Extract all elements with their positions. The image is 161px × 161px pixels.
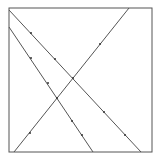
line-c [14,8,129,152]
line-b [9,27,93,152]
line-a [9,10,141,152]
intersection-point [72,77,74,79]
dot-marker [30,32,32,34]
dot-marker [47,82,49,84]
dot-marker [99,43,101,45]
dot-marker [71,120,73,122]
dot-marker [124,134,126,136]
dot-marker [29,132,31,134]
crossing-lines [9,8,141,152]
square-frame [9,8,152,152]
dot-marker [81,134,83,136]
dot-marker [54,58,56,60]
geometry-diagram [0,0,161,161]
dot-marker [103,111,105,113]
dot-marker [30,57,32,59]
intersection-point [56,97,58,99]
